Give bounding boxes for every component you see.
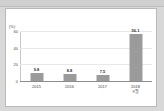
y-axis-tick-label: 20: [14, 62, 18, 67]
x-axis-tick-label: 2017: [98, 84, 107, 89]
bar-group: 7.52017: [86, 31, 119, 81]
bar[interactable]: [63, 74, 76, 81]
bar[interactable]: [129, 34, 142, 81]
bar-group: 56.120189월: [119, 31, 152, 81]
x-axis-tick-label: 2016: [65, 84, 74, 89]
x-axis-tick-main: 2015: [32, 84, 41, 89]
x-axis-tick-label: 20189월: [131, 84, 140, 94]
bar-value-label: 7.5: [100, 69, 106, 74]
app-root: (%) 02040609.820158.820167.5201756.12018…: [0, 0, 164, 111]
y-axis-tick-label: 40: [14, 45, 18, 50]
bar-group: 9.82015: [20, 31, 53, 81]
x-axis-tick-main: 2016: [65, 84, 74, 89]
x-axis-tick-sub: 9월: [131, 89, 140, 94]
x-axis-tick-label: 2015: [32, 84, 41, 89]
bar[interactable]: [96, 75, 109, 81]
bar-value-label: 56.1: [132, 28, 140, 33]
y-axis-tick-label: 60: [14, 29, 18, 34]
bar-group: 8.82016: [53, 31, 86, 81]
bar-value-label: 9.8: [34, 67, 40, 72]
x-axis-baseline: 0: [20, 81, 152, 82]
window-chrome-strip: [0, 0, 164, 7]
x-axis-tick-main: 2017: [98, 84, 107, 89]
bar[interactable]: [30, 73, 43, 81]
bar-value-label: 8.8: [67, 68, 73, 73]
chart-card: (%) 02040609.820158.820167.5201756.12018…: [5, 8, 157, 107]
chart-plot-area: 02040609.820158.820167.5201756.120189월: [20, 31, 152, 81]
y-axis-tick-label: 0: [16, 79, 18, 84]
